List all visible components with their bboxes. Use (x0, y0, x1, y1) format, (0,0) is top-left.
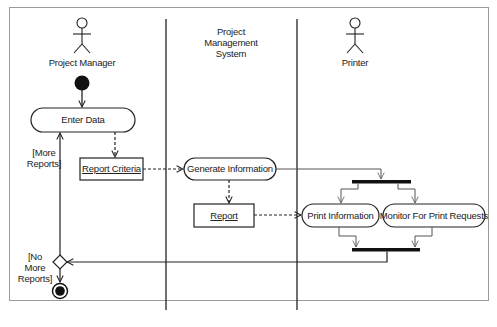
initial-node (75, 76, 90, 91)
actor-icon-project-manager (73, 18, 91, 53)
activity-diagram (0, 0, 497, 327)
action-generate-information[interactable] (184, 158, 276, 180)
fork-bar (352, 180, 411, 184)
object-report[interactable] (194, 204, 254, 227)
decision-node (53, 255, 67, 269)
action-enter-data[interactable] (31, 108, 135, 132)
actor-icon-printer (346, 18, 364, 53)
join-bar (352, 248, 420, 252)
final-node (53, 284, 68, 299)
edge-fork-to-print-information (341, 184, 358, 204)
diagram-frame (10, 8, 489, 301)
action-monitor-print-requests[interactable] (383, 204, 485, 227)
edge-join-to-decision (67, 252, 387, 263)
edge-generate-information-to-fork (276, 169, 381, 179)
edge-monitor-to-join (415, 227, 432, 247)
edge-fork-to-monitor (398, 184, 415, 204)
edge-print-information-to-join (339, 227, 356, 247)
action-print-information[interactable] (302, 204, 379, 227)
object-report-criteria[interactable] (80, 158, 143, 180)
